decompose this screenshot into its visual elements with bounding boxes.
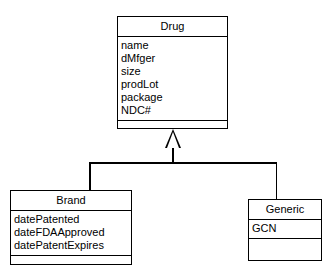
generalization-horizontal-bar <box>89 162 277 164</box>
class-operations-generic <box>249 239 321 260</box>
generalization-branch-brand <box>89 162 91 191</box>
uml-class-diagram-canvas: Drug name dMfger size prodLot package ND… <box>0 0 336 280</box>
attribute-item: datePatented <box>14 213 131 226</box>
attribute-item: dMfger <box>121 52 227 65</box>
class-operations-drug <box>118 121 227 128</box>
uml-class-generic[interactable]: Generic GCN <box>248 199 322 261</box>
generalization-stem <box>172 148 174 163</box>
uml-class-drug[interactable]: Drug name dMfger size prodLot package ND… <box>117 16 228 129</box>
class-attributes-drug: name dMfger size prodLot package NDC# <box>118 37 227 121</box>
attribute-item: name <box>121 39 227 52</box>
uml-class-brand[interactable]: Brand datePatented dateFDAApproved dateP… <box>10 190 132 265</box>
attribute-item: dateFDAApproved <box>14 226 131 239</box>
attribute-item: size <box>121 65 227 78</box>
class-attributes-brand: datePatented dateFDAApproved datePatentE… <box>11 211 131 256</box>
attribute-item: package <box>121 91 227 104</box>
class-attributes-generic: GCN <box>249 220 321 239</box>
class-name-drug: Drug <box>118 17 227 37</box>
generalization-branch-generic <box>276 162 278 200</box>
attribute-item: NDC# <box>121 104 227 117</box>
attribute-item: prodLot <box>121 78 227 91</box>
attribute-item: datePatentExpires <box>14 239 131 252</box>
attribute-item: GCN <box>252 222 321 235</box>
class-name-generic: Generic <box>249 200 321 220</box>
class-operations-brand <box>11 256 131 264</box>
class-name-brand: Brand <box>11 191 131 211</box>
